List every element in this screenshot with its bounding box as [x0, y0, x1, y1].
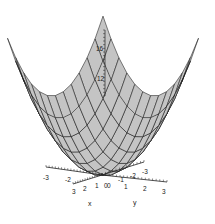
x-tick-3: 3: [72, 188, 76, 195]
y-tick--2: -2: [130, 172, 136, 179]
x-tick--3: -3: [43, 174, 49, 181]
y-tick-1: 1: [124, 183, 128, 190]
y-tick-2: 2: [143, 185, 147, 192]
paraboloid-surface: [8, 16, 199, 175]
y-tick--3: -3: [142, 168, 148, 175]
z-tick-16: 16: [96, 45, 104, 52]
surface-patch: [175, 57, 191, 95]
x-axis-label: x: [88, 200, 92, 207]
z-tick-12: 12: [97, 75, 105, 82]
surface-patch: [16, 57, 32, 95]
y-tick-0: 0: [107, 182, 111, 189]
x-tick--2: -2: [65, 176, 71, 183]
y-axis-label: y: [133, 199, 137, 207]
y-tick--1: -1: [118, 176, 124, 183]
surface-plot: 16 12 -3 -2 3 2 1 0 0 -1 -2 -3 1 2 3 x y: [0, 0, 215, 224]
x-tick-1: 1: [95, 182, 99, 189]
y-tick-3: 3: [162, 188, 166, 195]
x-tick-2: 2: [83, 185, 87, 192]
